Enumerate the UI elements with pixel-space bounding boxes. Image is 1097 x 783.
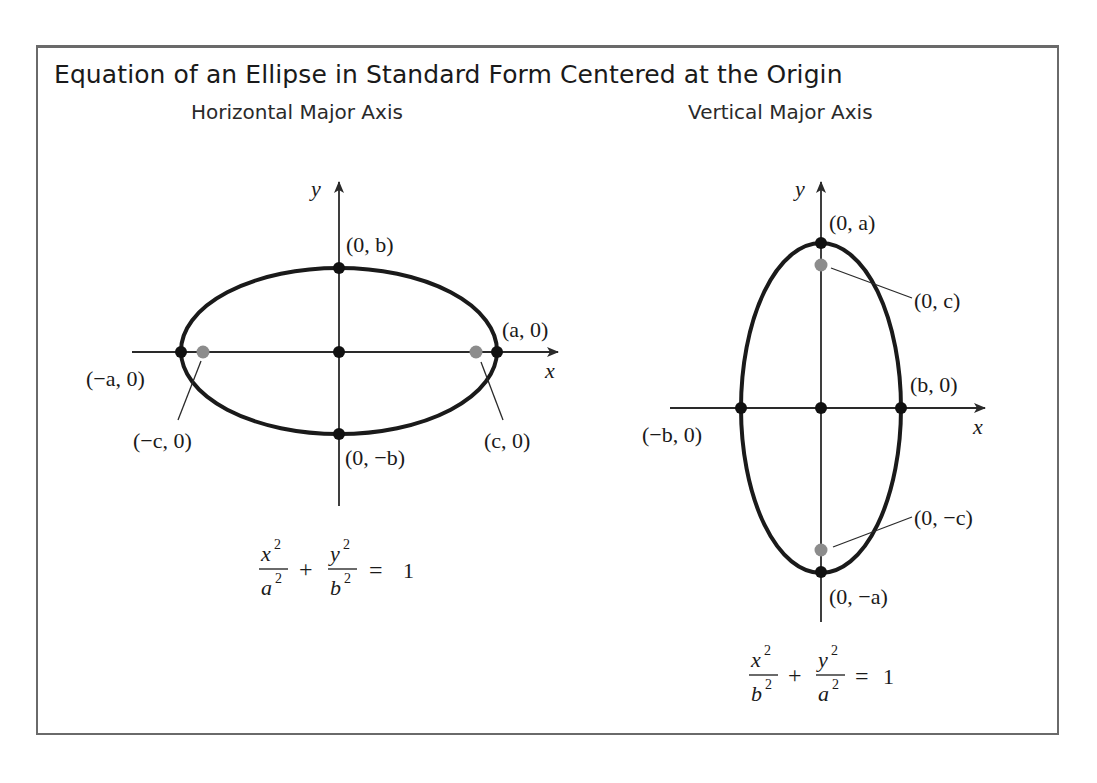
focus-dot-right (470, 346, 483, 359)
eq2-num2-exp: 2 (831, 643, 838, 658)
center-dot (333, 346, 345, 358)
covertex-dot-bottom (333, 428, 345, 440)
eq1-plus: + (299, 556, 313, 582)
eq1-den: a (261, 575, 272, 600)
focus-dot-left (197, 346, 210, 359)
label-bottom-focus: (0, −c) (914, 505, 973, 530)
covertex-dot-right (895, 402, 907, 414)
eq1-den-exp: 2 (275, 571, 282, 586)
eq1-num2-exp: 2 (343, 537, 350, 552)
ellipse-figure: Equation of an Ellipse in Standard Form … (0, 0, 1097, 783)
eq2-den-exp: 2 (765, 677, 772, 692)
eq1-num-exp: 2 (274, 537, 281, 552)
label-left-vertex: (−a, 0) (86, 366, 145, 391)
label-right-vertex: (a, 0) (502, 317, 548, 342)
panel-vertical: y x (0, a) (0, −a) (−b, 0) (b, 0) (0, c)… (642, 176, 985, 706)
leader-top-focus (831, 268, 912, 298)
x-axis-label-left: x (544, 358, 555, 383)
y-axis-label-right: y (793, 176, 805, 201)
covertex-dot-top (333, 262, 345, 274)
center-dot-right (815, 402, 827, 414)
eq2-equals: = (855, 663, 869, 689)
label-left-covertex: (−b, 0) (642, 422, 702, 447)
x-axis-label-right: x (972, 414, 983, 439)
covertex-dot-left (735, 402, 747, 414)
panel-horizontal: y x (0, b) (0, −b) (−a, 0) (a, 0) (−c, 0… (86, 176, 558, 600)
leader-bottom-focus (833, 517, 912, 547)
eq2-num2: y (816, 647, 828, 672)
eq2-den: b (751, 681, 762, 706)
label-bottom-vertex-right: (0, −a) (829, 584, 888, 609)
eq2-den2-exp: 2 (832, 677, 839, 692)
eq1-den2: b (330, 575, 341, 600)
eq1-equals: = (369, 557, 383, 583)
vertex-dot-right (491, 346, 503, 358)
label-top-vertex-right: (0, a) (829, 210, 875, 235)
eq2-num: x (750, 647, 761, 672)
label-top-vertex: (0, b) (346, 232, 394, 257)
label-right-covertex: (b, 0) (910, 372, 958, 397)
eq1-den2-exp: 2 (344, 571, 351, 586)
vertex-dot-top (815, 237, 827, 249)
eq2-num-exp: 2 (764, 643, 771, 658)
equation-vertical: x 2 b 2 + y 2 a 2 = 1 (749, 643, 894, 706)
equation-horizontal: x 2 a 2 + y 2 b 2 = 1 (259, 537, 414, 600)
diagram-canvas: y x (0, b) (0, −b) (−a, 0) (a, 0) (−c, 0… (0, 0, 1097, 783)
eq1-num2: y (328, 541, 340, 566)
eq2-plus: + (788, 662, 802, 688)
label-top-focus: (0, c) (914, 288, 960, 313)
label-right-focus: (c, 0) (484, 428, 530, 453)
eq1-rhs: 1 (403, 558, 414, 583)
vertex-dot-left (175, 346, 187, 358)
label-left-focus: (−c, 0) (133, 428, 192, 453)
eq2-den2: a (818, 681, 829, 706)
focus-dot-bottom (815, 544, 828, 557)
vertex-dot-bottom (815, 566, 827, 578)
y-axis-label-left: y (309, 176, 321, 201)
eq2-rhs: 1 (883, 664, 894, 689)
eq1-num: x (260, 541, 271, 566)
focus-dot-top (815, 259, 828, 272)
label-bottom-vertex: (0, −b) (345, 445, 405, 470)
